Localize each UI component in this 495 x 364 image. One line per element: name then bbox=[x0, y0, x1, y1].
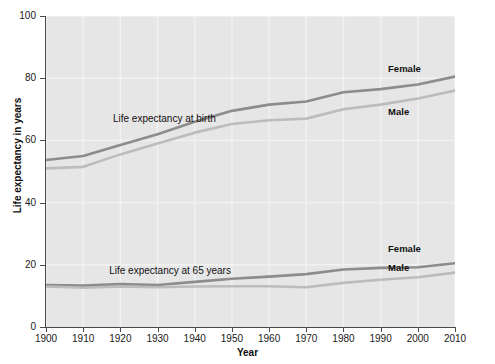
annotation-label: Life expectancy at 65 years bbox=[109, 265, 231, 276]
y-tick-label: 100 bbox=[19, 11, 36, 21]
x-tick-mark bbox=[418, 328, 419, 332]
x-tick-mark bbox=[381, 328, 382, 332]
x-tick-mark bbox=[120, 328, 121, 332]
y-tick-label: 60 bbox=[25, 135, 36, 145]
x-tick-mark bbox=[455, 328, 456, 332]
y-tick-mark bbox=[40, 327, 45, 328]
y-tick-label: 80 bbox=[25, 73, 36, 83]
y-tick-mark bbox=[40, 265, 45, 266]
y-tick-mark bbox=[40, 16, 45, 17]
x-tick-mark bbox=[343, 328, 344, 332]
y-axis-line bbox=[45, 16, 46, 328]
x-tick-mark bbox=[158, 328, 159, 332]
x-tick-mark bbox=[195, 328, 196, 332]
x-axis-title: Year bbox=[0, 347, 495, 358]
series-label-life-expectancy-at-birth-female: Female bbox=[388, 64, 421, 74]
x-tick-label: 1910 bbox=[63, 333, 103, 344]
x-tick-label: 1920 bbox=[100, 333, 140, 344]
x-tick-label: 1960 bbox=[249, 333, 289, 344]
series-label-life-expectancy-at-65-years-female: Female bbox=[388, 244, 421, 254]
series-label-life-expectancy-at-65-years-male: Male bbox=[388, 263, 409, 273]
y-tick-mark bbox=[40, 78, 45, 79]
series-label-life-expectancy-at-birth-male: Male bbox=[388, 107, 409, 117]
y-tick-label: 20 bbox=[25, 260, 36, 270]
x-tick-label: 1990 bbox=[361, 333, 401, 344]
life-expectancy-chart: 020406080100 190019101920193019401950196… bbox=[0, 0, 495, 364]
x-tick-label: 2000 bbox=[398, 333, 438, 344]
y-tick-mark bbox=[40, 140, 45, 141]
y-axis-title: Life expectancy in years bbox=[12, 76, 23, 236]
x-tick-label: 2010 bbox=[435, 333, 475, 344]
x-tick-label: 1900 bbox=[26, 333, 66, 344]
y-tick-mark bbox=[40, 203, 45, 204]
series-line-life-expectancy-at-birth-female bbox=[46, 77, 455, 160]
x-tick-mark bbox=[306, 328, 307, 332]
x-tick-label: 1940 bbox=[175, 333, 215, 344]
x-axis-line bbox=[45, 327, 456, 328]
x-tick-label: 1930 bbox=[138, 333, 178, 344]
x-tick-label: 1970 bbox=[286, 333, 326, 344]
x-tick-mark bbox=[232, 328, 233, 332]
y-tick-label: 40 bbox=[25, 198, 36, 208]
x-tick-label: 1950 bbox=[212, 333, 252, 344]
series-line-life-expectancy-at-birth-male bbox=[46, 91, 455, 169]
y-tick-label: 0 bbox=[30, 322, 36, 332]
annotation-label: Life expectancy at birth bbox=[113, 113, 216, 124]
x-tick-mark bbox=[269, 328, 270, 332]
x-tick-mark bbox=[46, 328, 47, 332]
x-tick-mark bbox=[83, 328, 84, 332]
x-tick-label: 1980 bbox=[323, 333, 363, 344]
